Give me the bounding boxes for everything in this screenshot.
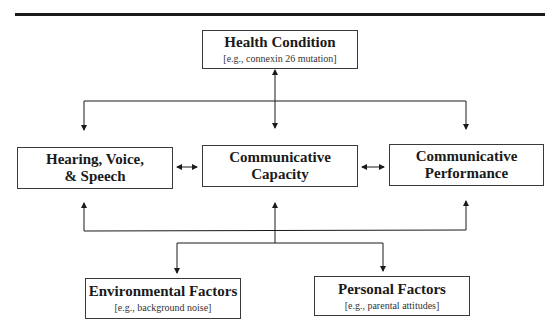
personal-factors-title: Personal Factors [338,281,446,298]
communicative-performance-box: Communicative Performance [389,144,544,186]
health-condition-box: Health Condition [e.g., connexin 26 muta… [202,30,358,69]
communicative-capacity-line2: Capacity [251,166,309,183]
communicative-capacity-line1: Communicative [229,149,331,166]
personal-factors-example: [e.g., parental attitudes] [345,300,440,312]
environmental-factors-example: [e.g., background noise] [115,302,212,314]
hearing-voice-speech-line1: Hearing, Voice, [46,151,144,168]
health-condition-title: Health Condition [224,34,335,51]
environmental-factors-box: Environmental Factors [e.g., background … [85,278,241,319]
personal-factors-box: Personal Factors [e.g., parental attitud… [314,276,470,316]
communicative-performance-line1: Communicative [416,148,518,165]
communicative-performance-line2: Performance [425,165,508,182]
hearing-voice-speech-box: Hearing, Voice, & Speech [17,147,173,189]
health-condition-example: [e.g., connexin 26 mutation] [223,53,336,65]
environmental-factors-title: Environmental Factors [89,283,237,300]
hearing-voice-speech-line2: & Speech [64,168,125,185]
communicative-capacity-box: Communicative Capacity [202,145,358,187]
